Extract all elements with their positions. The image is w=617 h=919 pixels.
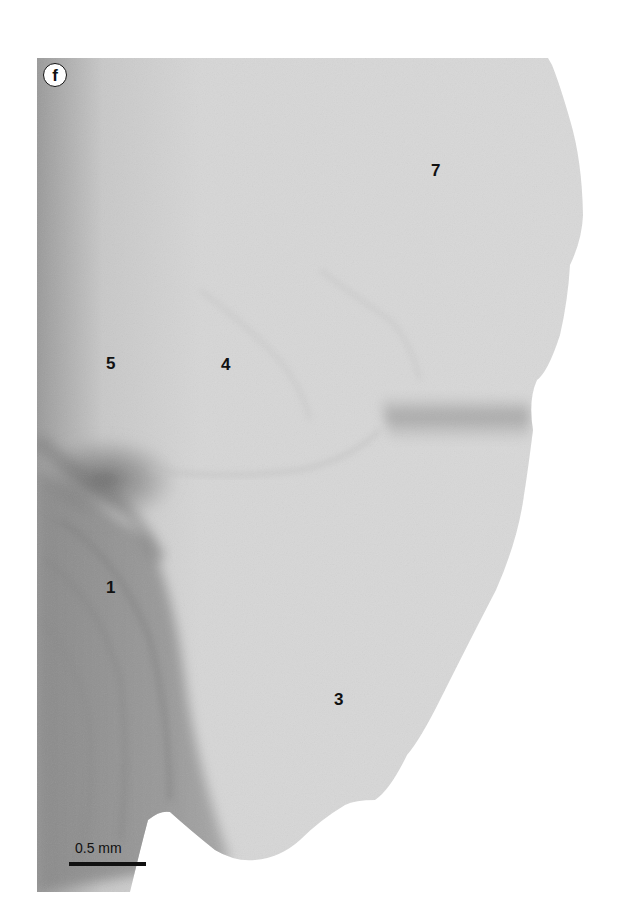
- region-label-5: 5: [106, 355, 115, 372]
- region-label-4: 4: [221, 356, 230, 373]
- region-label-3: 3: [334, 691, 343, 708]
- scale-bar: [69, 862, 146, 866]
- panel-label-badge: f: [43, 63, 67, 87]
- panel-label-text: f: [52, 67, 58, 84]
- scale-bar-label: 0.5 mm: [75, 841, 122, 855]
- micrograph-figure: f 1 3 4 5 7 0.5 mm: [0, 0, 617, 919]
- specimen-micrograph: [0, 0, 617, 919]
- region-label-1: 1: [106, 579, 115, 596]
- region-label-7: 7: [431, 162, 440, 179]
